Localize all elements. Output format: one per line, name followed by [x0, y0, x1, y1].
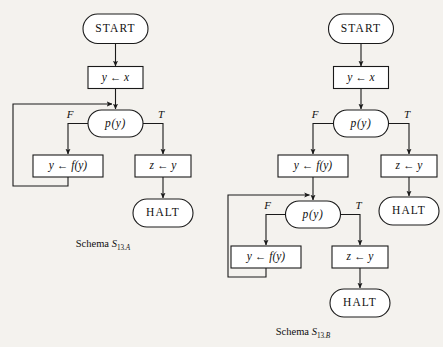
schema-b-test1-node: p(y) — [334, 110, 389, 137]
schema-b-false-branch-label-1: F — [311, 108, 319, 120]
schema-b-init-node: y ← x — [334, 67, 389, 89]
schema-b-test1-label: p(y) — [350, 117, 372, 130]
schema-b-caption-subscript-number: 13. — [317, 332, 326, 340]
schema-b-false-action2-node: y ← f(y) — [231, 246, 301, 268]
schema-a-start-label: START — [95, 22, 135, 34]
schema-b-halt2-label: HALT — [343, 296, 377, 308]
schema-b-true-action2-node: z ← y — [332, 246, 388, 268]
schema-a-true-action-label: z ← y — [149, 159, 178, 172]
schema-b-start-label: START — [341, 22, 381, 34]
schema-a-test-node: p(y) — [88, 110, 143, 137]
schema-a-false-action-node: y ← f(y) — [33, 155, 103, 177]
schema-b-halt1-node: HALT — [379, 197, 439, 225]
schema-a-start-node: START — [83, 14, 148, 44]
schema-b-start-node: START — [329, 14, 394, 44]
schema-b-caption-subscript-letter: B — [326, 332, 331, 340]
schema-a-false-branch-label: F — [66, 108, 74, 120]
schema-a-init-label: y ← x — [101, 71, 130, 84]
schema-b-halt2-node: HALT — [330, 289, 390, 317]
schema-b-true-branch-label-1: T — [404, 108, 411, 120]
schema-b-caption-word: Schema — [276, 326, 310, 337]
schema-b-test2-label: p(y) — [302, 208, 324, 221]
schema-a-init-node: y ← x — [88, 67, 143, 89]
schema-a-true-branch-label: T — [158, 108, 165, 120]
schema-b-true-branch-label-2: T — [355, 199, 362, 211]
schema-b-false-action1-label: y ← f(y) — [293, 159, 332, 172]
schema-a-test-label: p(y) — [104, 117, 126, 130]
schema-b-true-action2-label: z ← y — [346, 250, 375, 263]
schema-a-caption-word: Schema — [76, 238, 110, 249]
schema-b-true-action1-label: z ← y — [395, 159, 424, 172]
schema-b-init-label: y ← x — [346, 71, 375, 84]
schema-a-true-action-node: z ← y — [135, 155, 191, 177]
schema-a-halt-label: HALT — [146, 206, 180, 218]
schema-a-false-action-label: y ← f(y) — [48, 159, 87, 172]
schema-a-caption-subscript-letter: A — [125, 244, 131, 252]
schema-b-test2-node: p(y) — [286, 201, 341, 228]
schema-b-false-action2-label: y ← f(y) — [246, 250, 285, 263]
schema-a-halt-node: HALT — [133, 199, 193, 227]
schema-b-halt1-label: HALT — [392, 204, 426, 216]
flowchart-figure: START y ← x p(y) F T y ← f(y) z ← y HALT — [0, 0, 443, 347]
schema-b-true-action1-node: z ← y — [381, 155, 437, 177]
schema-b-false-action1-node: y ← f(y) — [278, 155, 348, 177]
schema-b-false-branch-label-2: F — [263, 199, 271, 211]
schema-a-caption-subscript-number: 13. — [117, 244, 126, 252]
